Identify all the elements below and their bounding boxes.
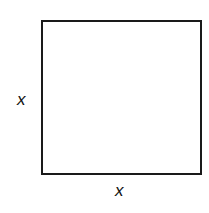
side-label-bottom: x (115, 182, 124, 199)
side-label-left: x (17, 91, 26, 108)
square-shape (41, 20, 202, 175)
